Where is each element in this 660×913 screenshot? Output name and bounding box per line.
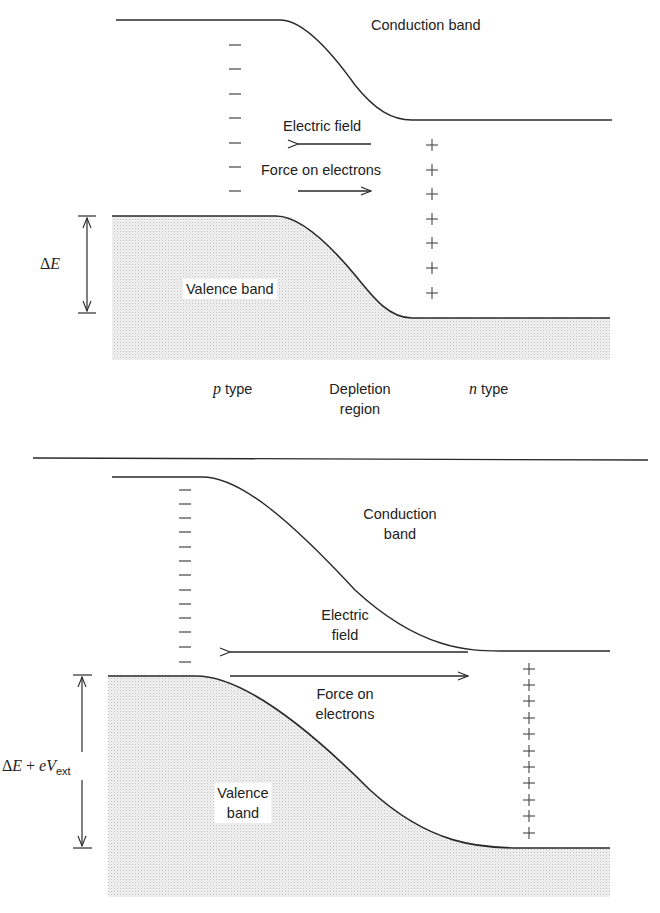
bottom-valence-band-label: Valenceband bbox=[214, 783, 271, 823]
top-conduction-band-label: Conduction band bbox=[371, 15, 481, 35]
p-type-text: type bbox=[221, 381, 252, 397]
plus-symbol: + bbox=[26, 757, 35, 774]
n-type-label: n type bbox=[469, 379, 508, 399]
top-positive-charges bbox=[426, 139, 438, 299]
energy-symbol: E bbox=[50, 255, 60, 272]
force-line1: Force on bbox=[316, 686, 373, 702]
bottom-conduction-band-label: Conductionband bbox=[363, 504, 436, 544]
bottom-electric-field-label: Electricfield bbox=[321, 605, 369, 645]
force-line2: electrons bbox=[316, 706, 375, 722]
field-line1: Electric bbox=[321, 607, 369, 623]
n-letter: n bbox=[469, 380, 477, 397]
field-line2: field bbox=[332, 627, 359, 643]
top-electric-field-label: Electric field bbox=[283, 116, 361, 136]
bottom-gap-label: ΔE + eVext bbox=[2, 756, 71, 781]
conduction-line2: band bbox=[384, 526, 416, 542]
bottom-positive-charges bbox=[523, 663, 535, 839]
voltage-symbol: V bbox=[46, 757, 56, 774]
depletion-region-label: Depletionregion bbox=[329, 379, 390, 419]
depletion-line1: Depletion bbox=[329, 381, 390, 397]
p-type-label: p type bbox=[213, 379, 252, 399]
delta-symbol: Δ bbox=[2, 757, 12, 774]
energy-symbol: E bbox=[12, 757, 22, 774]
top-panel bbox=[78, 20, 612, 360]
top-valence-band-label: Valence band bbox=[183, 279, 277, 299]
bottom-negative-charges bbox=[179, 490, 191, 662]
valence-line2: band bbox=[227, 805, 259, 821]
conduction-line1: Conduction bbox=[363, 506, 436, 522]
top-negative-charges bbox=[229, 45, 241, 191]
pn-junction-band-diagram bbox=[0, 0, 660, 913]
n-type-text: type bbox=[477, 381, 508, 397]
panel-divider bbox=[33, 458, 648, 460]
p-letter: p bbox=[213, 380, 221, 397]
voltage-subscript: ext bbox=[56, 765, 71, 777]
top-gap-bracket bbox=[78, 216, 96, 313]
delta-symbol: Δ bbox=[40, 255, 50, 272]
top-conduction-band-edge bbox=[116, 20, 612, 120]
depletion-line2: region bbox=[340, 401, 380, 417]
bottom-force-label: Force onelectrons bbox=[316, 684, 375, 724]
bottom-gap-bracket bbox=[73, 675, 92, 848]
top-force-label: Force on electrons bbox=[261, 160, 381, 180]
top-gap-label: ΔE bbox=[40, 254, 60, 274]
valence-line1: Valence bbox=[217, 785, 268, 801]
